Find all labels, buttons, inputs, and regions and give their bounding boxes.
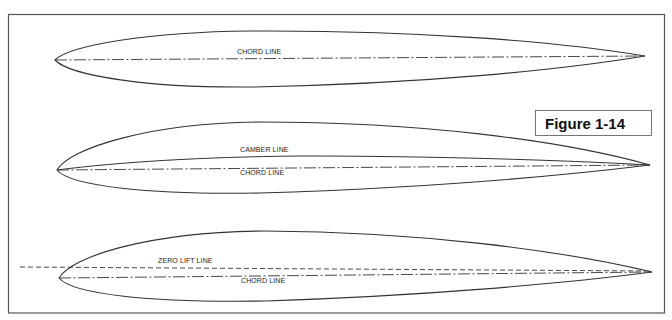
figure-label: Figure 1-14 bbox=[545, 115, 626, 132]
airfoil-3-chord-label: CHORD LINE bbox=[241, 277, 285, 284]
airfoil-diagram: CHORD LINE Figure 1-14 CAMBER LINE CHORD… bbox=[0, 0, 672, 320]
figure-frame bbox=[9, 15, 665, 314]
airfoil-1-chord-label: CHORD LINE bbox=[237, 48, 281, 55]
airfoil-3-chord-line bbox=[59, 272, 652, 278]
airfoil-3-zero-lift-line bbox=[20, 267, 652, 271]
figure-label-box: Figure 1-14 bbox=[536, 111, 652, 136]
airfoil-3-outline bbox=[59, 231, 652, 301]
airfoil-2-chord-label: CHORD LINE bbox=[240, 169, 284, 176]
airfoil-3-zero-lift-label: ZERO LIFT LINE bbox=[158, 257, 213, 264]
airfoil-1-chord-line bbox=[55, 56, 645, 60]
airfoil-2-chord-line bbox=[57, 165, 650, 170]
airfoil-1-outline bbox=[55, 31, 645, 87]
airfoil-zero-lift: ZERO LIFT LINE CHORD LINE bbox=[20, 231, 652, 301]
airfoil-symmetric: CHORD LINE bbox=[55, 31, 645, 87]
airfoil-2-camber-label: CAMBER LINE bbox=[240, 146, 289, 153]
